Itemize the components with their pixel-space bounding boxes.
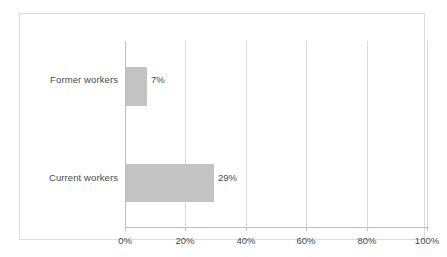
bar-former-workers xyxy=(126,67,147,106)
gridline-80 xyxy=(367,41,368,227)
x-tick-label-0: 0% xyxy=(118,235,132,246)
x-tick-80 xyxy=(367,227,368,231)
x-tick-label-80: 80% xyxy=(357,235,376,246)
data-label-former-workers: 7% xyxy=(151,74,165,85)
data-label-current-workers: 29% xyxy=(218,172,237,183)
gridline-100 xyxy=(427,41,428,227)
plot-area xyxy=(125,41,428,227)
x-tick-label-40: 40% xyxy=(236,235,255,246)
x-tick-60 xyxy=(306,227,307,231)
x-tick-label-100: 100% xyxy=(415,235,439,246)
gridline-60 xyxy=(306,41,307,227)
x-tick-40 xyxy=(246,227,247,231)
x-axis-line xyxy=(125,227,429,228)
gridline-40 xyxy=(246,41,247,227)
chart-frame: Former workers Current workers 7% 29% 0%… xyxy=(19,13,425,240)
x-tick-20 xyxy=(185,227,186,231)
x-tick-label-20: 20% xyxy=(175,235,194,246)
x-tick-label-60: 60% xyxy=(296,235,315,246)
category-label-former-workers: Former workers xyxy=(20,74,118,85)
x-tick-100 xyxy=(427,227,428,231)
category-label-current-workers: Current workers xyxy=(20,172,118,183)
bar-current-workers xyxy=(126,164,214,202)
x-tick-0 xyxy=(125,227,126,231)
